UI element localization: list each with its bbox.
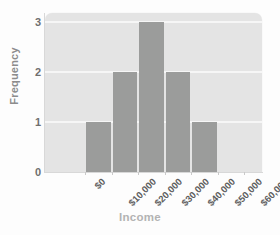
bar (86, 122, 111, 172)
x-tick-label: $0 (92, 176, 107, 191)
y-tick-label: 0 (3, 167, 41, 178)
y-tick-label: 3 (3, 17, 41, 28)
x-tick-mark (112, 172, 113, 175)
y-tick-label: 1 (3, 117, 41, 128)
y-axis-tick-labels: 0123 (0, 0, 41, 235)
bar (139, 22, 164, 172)
y-axis-title: Frequency (8, 36, 20, 116)
x-tick-mark (244, 172, 245, 175)
x-axis-line (44, 172, 263, 173)
x-tick-label: $10,000 (126, 176, 158, 208)
y-axis-line (44, 13, 45, 173)
bar (192, 122, 217, 172)
x-tick-mark (218, 172, 219, 175)
plot-area (45, 13, 262, 172)
x-tick-label: $30,000 (179, 176, 211, 208)
x-tick-mark (138, 172, 139, 175)
x-tick-mark (191, 172, 192, 175)
x-tick-label: $20,000 (152, 176, 184, 208)
bar (166, 72, 191, 172)
histogram-figure: 0123 Frequency $0$10,000$20,000$30,000$4… (0, 0, 280, 235)
bar (113, 72, 138, 172)
x-axis-title: Income (0, 211, 280, 223)
x-tick-mark (85, 172, 86, 175)
x-tick-mark (165, 172, 166, 175)
x-tick-label: $40,000 (205, 176, 237, 208)
x-tick-label: $50,000 (232, 176, 264, 208)
